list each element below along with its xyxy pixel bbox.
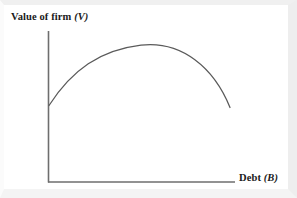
firm-value-curve	[49, 45, 230, 108]
x-axis-label: Debt (B)	[239, 172, 278, 183]
y-axis-label: Value of firm (V)	[11, 11, 88, 22]
plot-area	[0, 0, 297, 198]
y-axis-label-symbol: (V)	[74, 11, 88, 22]
x-axis-label-text: Debt	[239, 172, 261, 183]
x-axis-label-symbol: (B)	[264, 172, 278, 183]
y-axis-label-text: Value of firm	[11, 11, 71, 22]
figure-container: Value of firm (V) Debt (B)	[0, 0, 297, 198]
